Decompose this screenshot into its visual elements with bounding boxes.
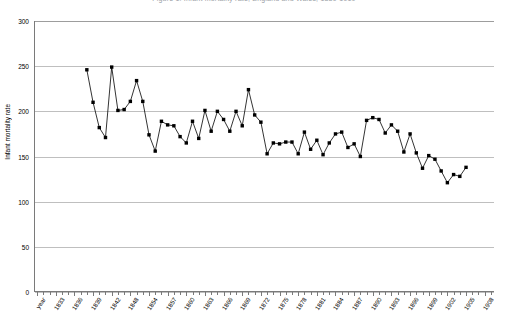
x-axis-labels: year183318361839184218481854185718601863… xyxy=(34,296,504,331)
x-axis-tick xyxy=(267,292,268,295)
gridline xyxy=(35,247,494,248)
x-axis-tick-label: 1857 xyxy=(164,296,178,311)
x-axis-tick xyxy=(68,292,69,295)
x-axis-tick xyxy=(50,292,51,295)
y-axis-ticks: 050100150200250300 xyxy=(0,21,32,292)
x-axis-tick xyxy=(230,292,231,295)
x-axis-tick xyxy=(193,292,194,295)
x-axis-tick xyxy=(311,292,312,295)
gridline xyxy=(35,111,494,112)
x-axis-tick xyxy=(211,292,212,295)
x-axis-tick xyxy=(143,292,144,295)
x-axis-tick xyxy=(379,292,380,295)
x-axis-tick xyxy=(441,292,442,295)
x-axis-tick-label: 1908 xyxy=(481,296,495,311)
x-axis-tick xyxy=(348,292,349,295)
x-axis-tick-label: 1872 xyxy=(257,296,271,311)
plot-area xyxy=(34,21,494,292)
x-axis-tick xyxy=(329,292,330,295)
x-axis-tick xyxy=(174,292,175,295)
x-axis-tick xyxy=(118,292,119,295)
x-axis-tick xyxy=(99,292,100,295)
x-axis-tick-label: 1833 xyxy=(52,296,66,311)
x-axis-tick xyxy=(137,292,138,295)
x-axis-tick xyxy=(199,292,200,295)
x-axis-tick-label: 1902 xyxy=(444,296,458,311)
x-axis-tick xyxy=(478,292,479,295)
x-axis-tick xyxy=(491,292,492,295)
x-axis-tick xyxy=(105,292,106,295)
gridline xyxy=(35,157,494,158)
gridline xyxy=(35,21,494,22)
x-axis-tick xyxy=(323,292,324,295)
y-axis-tick-label: 200 xyxy=(18,108,29,115)
x-axis-tick xyxy=(161,292,162,295)
x-axis-tick xyxy=(81,292,82,295)
y-axis-tick-label: 0 xyxy=(25,289,29,296)
x-axis-tick xyxy=(255,292,256,295)
x-axis-tick xyxy=(180,292,181,295)
y-axis-tick-label: 300 xyxy=(18,18,29,25)
x-axis-tick xyxy=(236,292,237,295)
x-axis-tick-label: 1839 xyxy=(89,296,103,311)
x-axis-tick xyxy=(124,292,125,295)
x-axis-tick xyxy=(217,292,218,295)
x-axis-tick-label: 1896 xyxy=(406,296,420,311)
x-axis-tick-label: 1905 xyxy=(462,296,476,311)
x-axis-tick xyxy=(248,292,249,295)
y-axis-tick-label: 250 xyxy=(18,63,29,70)
chart-container: Figure 1. Infant mortality rate, England… xyxy=(0,0,508,331)
gridline xyxy=(35,202,494,203)
x-axis-tick-label: 1890 xyxy=(369,296,383,311)
x-axis-tick xyxy=(360,292,361,295)
x-axis-tick-label: 1887 xyxy=(350,296,364,311)
x-axis-tick xyxy=(435,292,436,295)
x-axis-tick-label: 1866 xyxy=(220,296,234,311)
x-axis-tick-label: 1836 xyxy=(71,296,85,311)
x-axis-tick xyxy=(454,292,455,295)
x-axis-tick-label: 1863 xyxy=(201,296,215,311)
x-axis-tick xyxy=(460,292,461,295)
x-axis-tick xyxy=(404,292,405,295)
x-axis-tick xyxy=(286,292,287,295)
x-axis-tick-label: 1875 xyxy=(276,296,290,311)
x-axis-tick-label: 1860 xyxy=(183,296,197,311)
x-axis-tick-label: 1899 xyxy=(425,296,439,311)
chart-title: Figure 1. Infant mortality rate, England… xyxy=(0,0,508,2)
x-axis-tick xyxy=(342,292,343,295)
x-axis-tick-label: 1881 xyxy=(313,296,327,311)
x-axis-tick xyxy=(398,292,399,295)
x-axis-tick xyxy=(155,292,156,295)
x-axis-tick-label: 1854 xyxy=(145,296,159,311)
y-axis-tick-label: 50 xyxy=(22,243,29,250)
x-axis-tick-label: 1848 xyxy=(127,296,141,311)
x-axis-tick xyxy=(273,292,274,295)
x-axis-tick xyxy=(423,292,424,295)
x-axis-tick-label: 1869 xyxy=(239,296,253,311)
x-axis-tick xyxy=(304,292,305,295)
y-axis-tick-label: 100 xyxy=(18,198,29,205)
x-axis-tick xyxy=(87,292,88,295)
x-axis-tick-label: 1842 xyxy=(108,296,122,311)
x-axis-tick-label: 1878 xyxy=(294,296,308,311)
x-axis-tick xyxy=(472,292,473,295)
x-axis-tick xyxy=(43,292,44,295)
x-axis-tick xyxy=(62,292,63,295)
x-axis-tick xyxy=(385,292,386,295)
x-axis-tick-label: 1884 xyxy=(332,296,346,311)
y-axis-tick-label: 150 xyxy=(18,153,29,160)
x-axis-tick-label: year xyxy=(34,296,47,310)
gridline xyxy=(35,66,494,67)
x-axis-tick xyxy=(367,292,368,295)
x-axis-tick-label: 1893 xyxy=(388,296,402,311)
x-axis-tick xyxy=(416,292,417,295)
x-axis-tick xyxy=(292,292,293,295)
